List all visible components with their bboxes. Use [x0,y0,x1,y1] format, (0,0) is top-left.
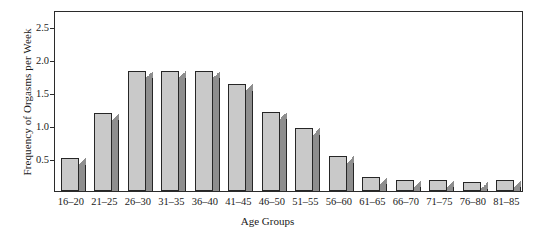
bar [362,177,380,191]
bar-front-face [496,180,514,191]
bar-front-face [128,71,146,191]
bar-top-face [179,71,186,78]
y-axis-tick-mark [50,28,55,29]
x-axis-tick-label: 81–85 [482,196,530,207]
bar-side-face [179,78,186,191]
y-axis-tick-mark [50,61,55,62]
bar-front-face [195,71,213,191]
bar-top-face [146,71,153,78]
bar-front-face [228,84,246,191]
bar [228,84,246,191]
bar-side-face [347,163,354,191]
bar-side-face [380,184,387,191]
bar-chart-figure: Frequency of Orgasms per Week 0.51.01.52… [0,0,535,243]
bar-top-face [313,128,320,135]
y-axis-tick-label: 1.5 [27,86,49,102]
bar [496,180,514,191]
bar [329,156,347,191]
bar-top-face [514,180,521,187]
bar-top-face [246,84,253,91]
bar-front-face [463,182,481,191]
bar-top-face [280,112,287,119]
bar-front-face [329,156,347,191]
bar-side-face [280,119,287,191]
bar-side-face [447,187,454,191]
bar-front-face [61,158,79,191]
x-axis-title: Age Groups [0,215,535,227]
bar [195,71,213,191]
bar [61,158,79,191]
bar-side-face [213,78,220,191]
bar-top-face [213,71,220,78]
bar-side-face [414,187,421,191]
y-axis-tick-label: 0.5 [27,152,49,168]
bar-front-face [362,177,380,191]
bar-front-face [94,113,112,191]
bar-front-face [161,71,179,191]
bar [262,112,280,191]
y-axis-tick-label: 2.5 [27,20,49,36]
bar-top-face [380,177,387,184]
y-axis-tick-mark [50,127,55,128]
bar-front-face [295,128,313,191]
bar-top-face [481,182,488,189]
bar-front-face [396,180,414,191]
bar-side-face [481,189,488,191]
bar-side-face [246,91,253,191]
y-axis-tick-label: 1.0 [27,119,49,135]
bar-side-face [79,165,86,191]
plot-area: 0.51.01.52.02.5 [54,11,523,192]
bar-top-face [79,158,86,165]
bar-top-face [112,113,119,120]
bar-side-face [313,135,320,191]
bar-top-face [447,180,454,187]
y-axis-tick-label: 2.0 [27,53,49,69]
bar-side-face [146,78,153,191]
y-axis-tick-mark [50,160,55,161]
bar [463,182,481,191]
bar [295,128,313,191]
bar [396,180,414,191]
bar [429,180,447,191]
bar-top-face [414,180,421,187]
bar [161,71,179,191]
bar-side-face [514,187,521,191]
bar-top-face [347,156,354,163]
bar-side-face [112,120,119,191]
bar [94,113,112,191]
bar-front-face [429,180,447,191]
bar [128,71,146,191]
y-axis-tick-mark [50,94,55,95]
bar-front-face [262,112,280,191]
